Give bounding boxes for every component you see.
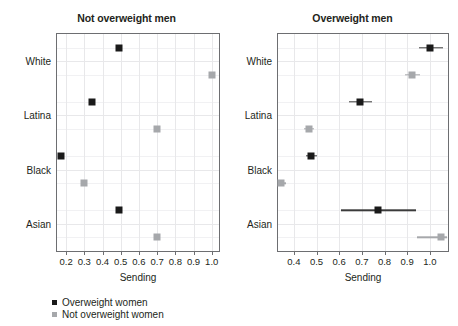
gridline-horizontal bbox=[278, 170, 448, 171]
x-axis-tick-label: 0.2 bbox=[59, 256, 72, 267]
data-point-marker[interactable] bbox=[278, 180, 285, 187]
panel-title: Not overweight men bbox=[0, 12, 229, 24]
x-axis-tick bbox=[294, 251, 295, 255]
data-point-marker[interactable] bbox=[88, 98, 95, 105]
gridline-horizontal-minor bbox=[278, 75, 448, 76]
gridline-vertical bbox=[339, 34, 340, 251]
gridline-vertical bbox=[84, 34, 85, 251]
x-axis-tick-label: 0.4 bbox=[287, 256, 300, 267]
gridline-vertical bbox=[175, 34, 176, 251]
x-axis-tick-label: 0.9 bbox=[401, 256, 414, 267]
x-axis-tick bbox=[84, 251, 85, 255]
gridline-vertical bbox=[157, 34, 158, 251]
x-axis-tick-label: 0.8 bbox=[169, 256, 182, 267]
x-axis-title-right: Sending bbox=[277, 272, 449, 283]
data-point-marker[interactable] bbox=[408, 71, 415, 78]
data-point-marker[interactable] bbox=[426, 44, 433, 51]
x-axis-tick-label: 0.4 bbox=[96, 256, 109, 267]
gridline-horizontal bbox=[278, 224, 448, 225]
y-axis-label-latina: Latina bbox=[24, 110, 51, 121]
gridline-horizontal bbox=[278, 115, 448, 116]
x-axis-tick bbox=[157, 251, 158, 255]
panel-not-overweight-men: Not overweight men WhiteLatinaBlackAsian… bbox=[0, 0, 229, 290]
legend-item: Not overweight women bbox=[52, 308, 164, 320]
gridline-vertical bbox=[194, 34, 195, 251]
data-point-marker[interactable] bbox=[115, 207, 122, 214]
data-point-marker[interactable] bbox=[307, 153, 314, 160]
x-axis-tick-label: 0.8 bbox=[378, 256, 391, 267]
gridline-vertical bbox=[212, 34, 213, 251]
data-point-marker[interactable] bbox=[374, 207, 381, 214]
gridline-vertical bbox=[103, 34, 104, 251]
legend-label: Not overweight women bbox=[62, 309, 164, 320]
gridline-vertical bbox=[294, 34, 295, 251]
x-axis-tick-label: 0.7 bbox=[151, 256, 164, 267]
data-point-marker[interactable] bbox=[57, 153, 64, 160]
x-axis-tick bbox=[407, 251, 408, 255]
x-axis-tick-label: 0.9 bbox=[187, 256, 200, 267]
x-axis-tick bbox=[385, 251, 386, 255]
data-point-marker[interactable] bbox=[115, 44, 122, 51]
y-axis-label-asian: Asian bbox=[247, 218, 272, 229]
gridline-horizontal bbox=[278, 61, 448, 62]
legend: Overweight women Not overweight women bbox=[52, 296, 164, 320]
data-point-marker[interactable] bbox=[154, 125, 161, 132]
figure-container: Not overweight men WhiteLatinaBlackAsian… bbox=[0, 0, 458, 326]
gridline-vertical bbox=[430, 34, 431, 251]
gridline-vertical bbox=[121, 34, 122, 251]
data-point-marker[interactable] bbox=[305, 125, 312, 132]
x-axis-tick bbox=[317, 251, 318, 255]
y-axis-label-latina: Latina bbox=[245, 110, 272, 121]
legend-label: Overweight women bbox=[62, 297, 148, 308]
data-point-marker[interactable] bbox=[81, 180, 88, 187]
x-axis-title-left: Sending bbox=[56, 272, 220, 283]
legend-swatch-overweight-women-icon bbox=[52, 300, 57, 305]
y-axis-label-asian: Asian bbox=[26, 218, 51, 229]
gridline-horizontal-minor bbox=[278, 183, 448, 184]
y-axis-label-black: Black bbox=[27, 164, 51, 175]
data-point-marker[interactable] bbox=[154, 234, 161, 241]
data-point-marker[interactable] bbox=[438, 234, 445, 241]
legend-item: Overweight women bbox=[52, 296, 164, 308]
x-axis-tick bbox=[339, 251, 340, 255]
x-axis-tick bbox=[212, 251, 213, 255]
x-axis-tick bbox=[103, 251, 104, 255]
plot-area-left: WhiteLatinaBlackAsian0.20.30.40.50.60.70… bbox=[56, 33, 220, 252]
x-axis-tick-label: 0.7 bbox=[355, 256, 368, 267]
gridline-vertical bbox=[385, 34, 386, 251]
x-axis-tick-label: 0.5 bbox=[114, 256, 127, 267]
x-axis-tick bbox=[121, 251, 122, 255]
gridline-vertical bbox=[66, 34, 67, 251]
x-axis-tick-label: 1.0 bbox=[205, 256, 218, 267]
data-point-marker[interactable] bbox=[356, 98, 363, 105]
x-axis-tick-label: 0.5 bbox=[310, 256, 323, 267]
x-axis-tick bbox=[194, 251, 195, 255]
x-axis-tick-label: 0.6 bbox=[333, 256, 346, 267]
panel-overweight-men: Overweight men WhiteLatinaBlackAsian0.40… bbox=[229, 0, 458, 290]
x-axis-tick-label: 0.6 bbox=[132, 256, 145, 267]
gridline-vertical bbox=[407, 34, 408, 251]
gridline-vertical bbox=[317, 34, 318, 251]
panel-title: Overweight men bbox=[229, 12, 458, 24]
y-axis-label-white: White bbox=[246, 56, 272, 67]
x-axis-tick-label: 0.3 bbox=[78, 256, 91, 267]
legend-swatch-not-overweight-women-icon bbox=[52, 312, 57, 317]
y-axis-label-black: Black bbox=[248, 164, 272, 175]
x-axis-tick bbox=[175, 251, 176, 255]
x-axis-tick bbox=[66, 251, 67, 255]
x-axis-tick bbox=[430, 251, 431, 255]
plot-area-right: WhiteLatinaBlackAsian0.40.50.60.70.80.91… bbox=[277, 33, 449, 252]
x-axis-tick bbox=[362, 251, 363, 255]
x-axis-tick bbox=[139, 251, 140, 255]
data-point-marker[interactable] bbox=[208, 71, 215, 78]
y-axis-label-white: White bbox=[25, 56, 51, 67]
gridline-horizontal-minor bbox=[278, 156, 448, 157]
gridline-vertical bbox=[362, 34, 363, 251]
gridline-vertical bbox=[139, 34, 140, 251]
x-axis-tick-label: 1.0 bbox=[423, 256, 436, 267]
